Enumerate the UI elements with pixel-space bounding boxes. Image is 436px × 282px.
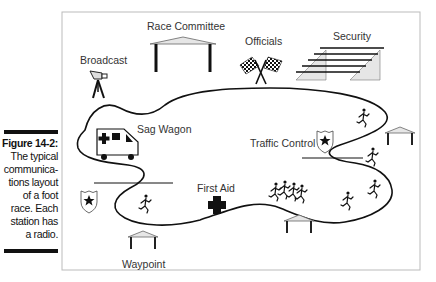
label-waypoint: Waypoint — [122, 258, 165, 270]
race-layout-diagram: Race Committee Broadcast Officials Secur… — [0, 0, 436, 282]
label-race-committee: Race Committee — [147, 20, 225, 32]
label-broadcast: Broadcast — [80, 54, 127, 66]
label-security: Security — [333, 30, 372, 42]
label-sag-wagon: Sag Wagon — [137, 123, 192, 135]
label-first-aid: First Aid — [197, 182, 235, 194]
label-officials: Officials — [245, 35, 282, 47]
label-traffic-control: Traffic Control — [250, 137, 315, 149]
